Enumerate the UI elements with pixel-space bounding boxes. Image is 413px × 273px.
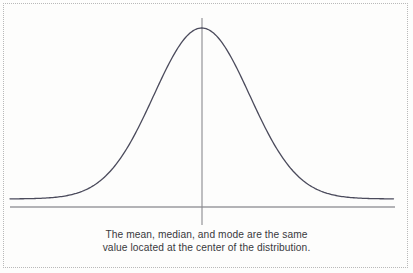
figure-caption: The mean, median, and mode are the same … bbox=[0, 228, 413, 255]
caption-line-2: value located at the center of the distr… bbox=[0, 241, 413, 254]
caption-line-1: The mean, median, and mode are the same bbox=[0, 228, 413, 241]
normal-distribution-figure: The mean, median, and mode are the same … bbox=[0, 0, 413, 273]
